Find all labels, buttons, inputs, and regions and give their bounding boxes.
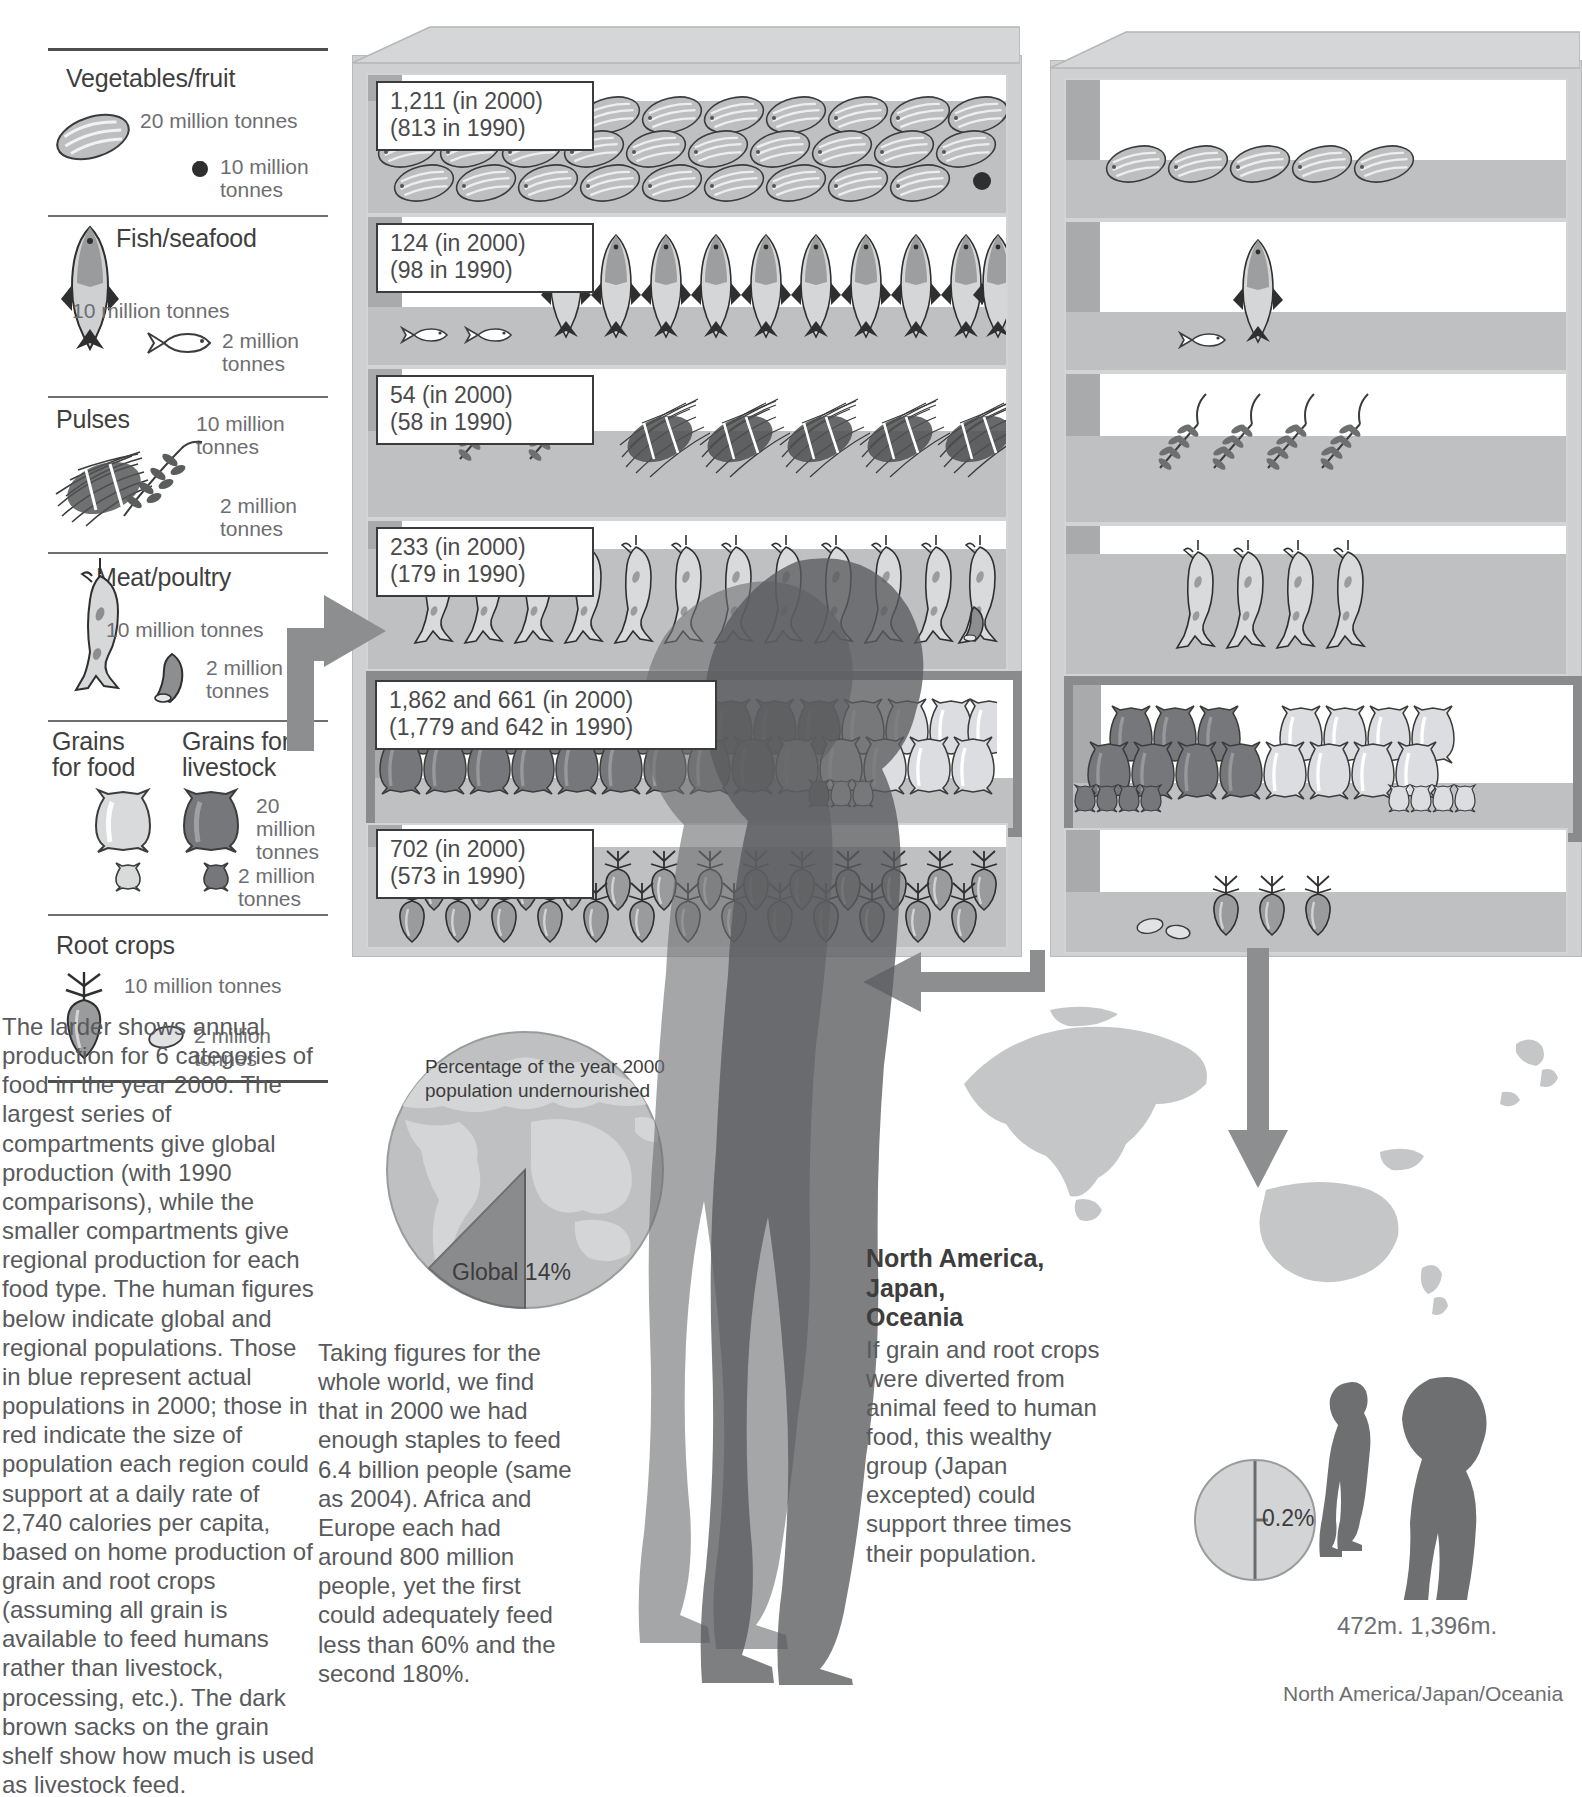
region-pie-value-label: 0.2% [1262,1505,1314,1532]
legend-title-grains-for-food: Grains for food [52,728,135,781]
legend-title-grains-for-livestock: Grains for livestock [182,728,290,781]
region-figures-caption: 472m. 1,396m. [1337,1612,1497,1640]
grain-to-meat-arrow [280,555,390,770]
callout-value-2000: 54 (in 2000) [390,382,513,408]
legend-item-pulses: Pulses 10 million tonnes 2 million t [48,398,328,552]
world-note-text: Taking figures for the whole world, we f… [318,1338,580,1688]
figure-supportable-population [1400,1377,1487,1600]
berry-icon [973,172,991,190]
regional-shelf-pulses [1064,372,1568,524]
callout-value-1990: (1,779 and 642 in 1990) [389,714,633,740]
description-paragraph: The larder shows annual production for 6… [2,1012,320,1797]
shelf-vegetables-fruit: 1,211 (in 2000)(813 in 1990) [366,73,1008,215]
berry-icon [188,155,212,179]
callout-value-1990: (179 in 1990) [390,561,526,587]
meat-cut-icon [150,652,198,704]
regional-shelf-grains [1064,676,1582,842]
legend-small-label-vegetables-fruit: 10 million tonnes [220,155,328,201]
regional-grain-sack-row [1073,685,1557,819]
small-fish-icon [144,327,214,359]
regional-marrow-row [1066,80,1566,218]
callout-meat-poultry: 233 (in 2000)(179 in 1990) [376,527,594,597]
legend-big-label-fish-seafood: 10 million tonnes [72,299,230,322]
legend-item-fish-seafood: Fish/seafood 10 million tonnes 2 million… [48,217,328,396]
callout-value-1990: (58 in 1990) [390,409,513,435]
callout-value-1990: (813 in 1990) [390,115,526,141]
world-note-paragraph: Taking figures for the whole world, we f… [318,1338,580,1688]
regional-shelf-meat-poultry [1064,524,1568,676]
potato-icon [1136,916,1164,935]
shelf-pulses: 54 (in 2000)(58 in 1990) [366,367,1008,519]
callout-pulses: 54 (in 2000)(58 in 1990) [376,375,594,445]
legend-small-label-fish-seafood: 2 million tonnes [222,329,328,375]
regional-shelf-root-crops [1064,828,1568,954]
grain-sack-icon [92,788,154,854]
legend-big-label-root-crops: 10 million tonnes [124,974,282,997]
cabinet-top [352,25,1020,65]
callout-grains: 1,862 and 661 (in 2000)(1,779 and 642 in… [375,680,717,750]
small-grain-sack-icon [114,862,142,892]
callout-value-2000: 702 (in 2000) [390,836,526,862]
shelf-fish-seafood: 124 (in 2000)(98 in 1990) [366,215,1008,367]
callout-value-1990: (573 in 1990) [390,863,526,889]
potato-icon [1165,924,1191,940]
callout-root-crops: 702 (in 2000)(573 in 1990) [376,829,594,899]
legend-title-vegetables-fruit: Vegetables/fruit [66,65,235,91]
callout-fish-seafood: 124 (in 2000)(98 in 1990) [376,223,594,293]
regional-root-row [1066,830,1566,952]
regional-shelf-fish-seafood [1064,220,1568,372]
callout-value-2000: 1,862 and 661 (in 2000) [389,687,633,713]
region-figures-footer: North America/Japan/Oceania [1283,1682,1563,1706]
regional-shelf-vegetables-fruit [1064,78,1568,220]
legend-title-fish-seafood: Fish/seafood [116,225,257,251]
region-population-figures [1318,1375,1548,1600]
legend-small-label-grains: 2 million tonnes [238,864,328,910]
figure-actual-population [1319,1382,1370,1557]
legend-big-label-pulses: 10 million tonnes [196,412,328,458]
callout-value-2000: 233 (in 2000) [390,534,526,560]
cabinet-top [1050,30,1580,70]
regional-carcass-row [1066,526,1566,674]
description-text: The larder shows annual production for 6… [2,1012,320,1797]
marrow-icon [54,106,132,168]
pulse-sheaf-icon [52,436,202,532]
callout-vegetables-fruit: 1,211 (in 2000)(813 in 1990) [376,81,594,151]
legend-small-label-pulses: 2 million tonnes [220,494,328,540]
regional-pulses-row [1066,374,1566,522]
legend-big-label-grains: 20 million tonnes [256,794,328,863]
grain-sack-icon [180,788,242,854]
region-note-paragraph: If grain and root crops were diverted fr… [866,1335,1114,1568]
callout-value-2000: 124 (in 2000) [390,230,526,256]
legend-title-pulses: Pulses [56,406,130,432]
legend-big-label-vegetables-fruit: 20 million tonnes [140,109,298,132]
legend-item-vegetables-fruit: Vegetables/fruit 20 million tonnes 10 mi… [48,51,328,215]
small-grain-sack-icon [202,862,230,892]
callout-value-2000: 1,211 (in 2000) [390,88,543,114]
large-fish-icon [58,225,122,351]
regional-larder-cabinet [1050,30,1580,955]
region-note: North America, Japan, Oceania If grain a… [866,1244,1114,1568]
legend-title-root-crops: Root crops [56,932,175,958]
legend-big-label-meat-poultry: 10 million tonnes [106,618,264,641]
callout-value-1990: (98 in 1990) [390,257,513,283]
regional-fish-row [1066,222,1566,370]
region-note-heading: North America, Japan, Oceania [866,1244,1114,1333]
